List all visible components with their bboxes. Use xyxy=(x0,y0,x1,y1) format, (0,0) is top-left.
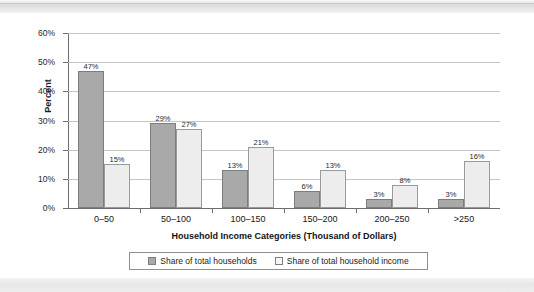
bar: 3% xyxy=(366,199,392,208)
bar-value-label: 16% xyxy=(469,152,484,161)
bar-chart-figure: Percent 0%10%20%30%40%50%60% 47%15%29%27… xyxy=(0,13,534,278)
x-axis-tick xyxy=(356,208,357,213)
legend-item-household-income: Share of total household income xyxy=(275,256,409,266)
x-axis-category-label: >250 xyxy=(454,214,474,224)
x-axis-tick xyxy=(140,208,141,213)
bar: 27% xyxy=(176,129,202,208)
page-top-rule xyxy=(0,3,534,4)
x-axis-category-label: 150–200 xyxy=(302,214,337,224)
bar-value-label: 3% xyxy=(446,190,457,199)
bar-value-label: 8% xyxy=(400,176,411,185)
bar-value-label: 6% xyxy=(302,182,313,191)
y-axis-tick: 20% xyxy=(63,150,68,151)
gridline xyxy=(68,33,500,34)
bar: 16% xyxy=(464,161,490,208)
x-axis-category-label: 50–100 xyxy=(161,214,191,224)
y-axis-tick-label: 10% xyxy=(38,174,55,184)
y-axis-tick: 60% xyxy=(63,33,68,34)
y-axis-tick-label: 20% xyxy=(38,145,55,155)
gridline xyxy=(68,121,500,122)
x-axis-tick xyxy=(212,208,213,213)
legend-swatch-dark-gray-square-icon xyxy=(148,257,156,265)
y-axis-tick: 30% xyxy=(63,121,68,122)
x-axis-category-label: 100–150 xyxy=(230,214,265,224)
y-axis-tick-label: 30% xyxy=(38,116,55,126)
y-axis-tick-label: 50% xyxy=(38,57,55,67)
legend-label: Share of total households xyxy=(160,256,256,266)
y-axis-tick-label: 40% xyxy=(38,86,55,96)
chart-legend: Share of total households Share of total… xyxy=(129,252,428,270)
y-axis-tick: 10% xyxy=(63,179,68,180)
gridline xyxy=(68,62,500,63)
page-background: Percent 0%10%20%30%40%50%60% 47%15%29%27… xyxy=(0,0,534,292)
bar: 13% xyxy=(222,170,248,208)
bar: 8% xyxy=(392,185,418,208)
plot-area: 0%10%20%30%40%50%60% 47%15%29%27%13%21%6… xyxy=(68,33,500,208)
bar-value-label: 27% xyxy=(181,120,196,129)
legend-item-households: Share of total households xyxy=(148,256,256,266)
bar-value-label: 29% xyxy=(155,114,170,123)
y-axis-tick: 40% xyxy=(63,91,68,92)
gridline xyxy=(68,179,500,180)
y-axis-tick-label: 0% xyxy=(43,203,55,213)
x-axis-category-label: 200–250 xyxy=(374,214,409,224)
page-bottom-margin-band xyxy=(0,278,534,292)
bar-value-label: 15% xyxy=(109,155,124,164)
gridline xyxy=(68,150,500,151)
bar-value-label: 3% xyxy=(374,190,385,199)
bar-value-label: 13% xyxy=(325,161,340,170)
y-axis-tick-label: 60% xyxy=(38,28,55,38)
x-axis-tick xyxy=(428,208,429,213)
gridline xyxy=(68,91,500,92)
y-axis-tick: 0% xyxy=(63,208,68,209)
bar-value-label: 47% xyxy=(83,62,98,71)
bar-value-label: 13% xyxy=(227,161,242,170)
bar: 15% xyxy=(104,164,130,208)
bar: 13% xyxy=(320,170,346,208)
bar: 47% xyxy=(78,71,104,208)
bar: 29% xyxy=(150,123,176,208)
x-axis-title: Household Income Categories (Thousand of… xyxy=(68,231,500,241)
page-top-margin-band xyxy=(0,0,534,13)
x-axis-category-label: 0–50 xyxy=(94,214,114,224)
y-axis-tick: 50% xyxy=(63,62,68,63)
bar: 3% xyxy=(438,199,464,208)
x-axis-tick xyxy=(284,208,285,213)
legend-label: Share of total household income xyxy=(287,256,409,266)
legend-swatch-light-gray-square-icon xyxy=(275,257,283,265)
bar: 21% xyxy=(248,147,274,208)
bar: 6% xyxy=(294,191,320,209)
bar-value-label: 21% xyxy=(253,138,268,147)
